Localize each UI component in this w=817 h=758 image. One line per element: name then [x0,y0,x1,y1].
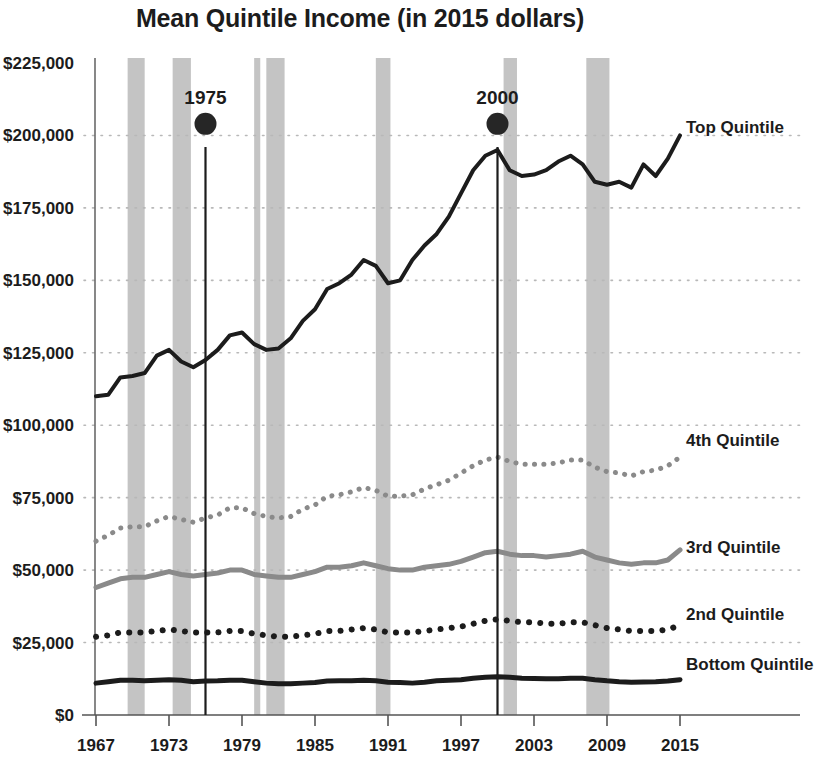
recession-band [128,58,145,715]
series-label: 2nd Quintile [686,605,784,624]
y-tick-label: $200,000 [3,126,74,145]
x-tick-label: 1967 [77,736,115,755]
recession-band [586,58,609,715]
recession-band [173,58,191,715]
y-tick-label: $150,000 [3,271,74,290]
y-tick-label: $0 [55,706,74,725]
y-tick-label: $50,000 [13,561,74,580]
x-tick-label: 2015 [661,736,699,755]
y-tick-labels-group: $0$25,000$50,000$75,000$100,000$125,000$… [3,54,74,725]
recession-band [376,58,391,715]
series-label: Top Quintile [686,118,784,137]
y-tick-label: $75,000 [13,489,74,508]
recession-bands-group [128,58,610,715]
x-tick-label: 1979 [223,736,261,755]
y-tick-label: $25,000 [13,634,74,653]
x-tick-label: 2003 [515,736,553,755]
series-labels-group: Top Quintile4th Quintile3rd Quintile2nd … [686,118,813,675]
series-label: Bottom Quintile [686,655,813,674]
annotation-label: 1975 [184,87,227,108]
x-tick-labels-group: 196719731979198519911997200320092015 [77,736,699,755]
annotation-label: 2000 [476,87,518,108]
recession-band [504,58,517,715]
y-tick-label: $100,000 [3,416,74,435]
y-tick-label: $175,000 [3,199,74,218]
series-label: 4th Quintile [686,431,780,450]
x-tick-label: 1991 [369,736,407,755]
x-tick-label: 1973 [150,736,188,755]
series-label: 3rd Quintile [686,538,780,557]
chart-page: Mean Quintile Income (in 2015 dollars) $… [0,0,817,758]
x-tick-label: 1997 [442,736,480,755]
recession-band [266,58,284,715]
annotation-marker [195,113,217,135]
y-tick-label: $225,000 [3,54,74,73]
x-tick-label: 2009 [588,736,626,755]
x-tick-label: 1985 [296,736,334,755]
recession-band [254,58,260,715]
chart-plot-area: $0$25,000$50,000$75,000$100,000$125,000$… [0,0,817,758]
y-tick-label: $125,000 [3,344,74,363]
annotation-marker [487,113,509,135]
